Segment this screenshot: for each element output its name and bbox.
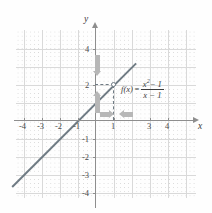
formula-function-name: f(x) — [121, 84, 133, 94]
gridline-horizontal — [16, 139, 196, 140]
x-tick-label: -1 — [73, 122, 80, 131]
y-tick-label: -2 — [82, 153, 89, 162]
gridline-horizontal — [16, 49, 196, 50]
y-tick-label: -3 — [82, 171, 89, 180]
function-formula-label: f(x) = x2− 1 x − 1 — [121, 78, 164, 100]
graph-figure: y x -4 -3 -2 -1 1 3 4 4 2 -1 -2 -3 -4 f(… — [0, 0, 212, 213]
approach-arrow-down-head — [93, 71, 101, 76]
gridline-horizontal — [16, 67, 196, 68]
y-tick-label: 4 — [85, 45, 89, 54]
y-tick-label: 2 — [85, 81, 89, 90]
approach-arrow-up-shaft — [95, 96, 99, 113]
y-axis-label: y — [84, 14, 88, 24]
approach-arrow-up-head — [93, 91, 101, 96]
approach-arrow-left-head — [119, 110, 124, 118]
x-axis-label: x — [198, 121, 202, 131]
approach-arrow-right-head — [109, 110, 114, 118]
gridline-vertical — [42, 30, 43, 198]
gridline-vertical — [186, 30, 187, 198]
formula-fraction: x2− 1 x − 1 — [141, 78, 164, 100]
x-tick-label: 4 — [165, 122, 169, 131]
x-tick-label: -3 — [37, 122, 44, 131]
gridline-horizontal — [16, 103, 196, 104]
formula-equals: = — [134, 84, 139, 94]
y-tick — [93, 193, 96, 194]
formula-numerator: x2− 1 — [141, 78, 164, 90]
gridline-horizontal — [16, 175, 196, 176]
x-tick-label: 1 — [111, 122, 115, 131]
gridline-horizontal — [16, 193, 196, 194]
y-axis-arrowhead — [92, 22, 98, 28]
y-tick-label: -4 — [82, 189, 89, 198]
y-tick-label: -1 — [82, 135, 89, 144]
x-tick-label: -4 — [19, 122, 26, 131]
x-tick-label: 3 — [147, 122, 151, 131]
numerator-rest: − 1 — [150, 79, 162, 89]
formula-denominator: x − 1 — [141, 90, 163, 99]
gridline-vertical — [60, 30, 61, 198]
y-tick — [93, 139, 96, 140]
y-tick — [93, 157, 96, 158]
approach-arrow-down-shaft — [95, 55, 99, 72]
y-tick — [93, 175, 96, 176]
approach-arrow-left-shaft — [124, 112, 133, 116]
gridline-vertical — [78, 30, 79, 198]
gridline-vertical — [168, 30, 169, 198]
y-tick — [93, 49, 96, 50]
x-tick-label: -2 — [55, 122, 62, 131]
gridline-vertical — [150, 30, 151, 198]
